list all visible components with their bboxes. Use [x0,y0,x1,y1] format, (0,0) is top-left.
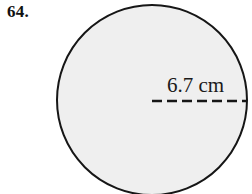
circle-shape [57,5,247,194]
radius-measurement-label: 6.7 cm [167,73,224,97]
circle-diagram [0,0,252,194]
figure-page: 64. 6.7 cm [0,0,252,194]
